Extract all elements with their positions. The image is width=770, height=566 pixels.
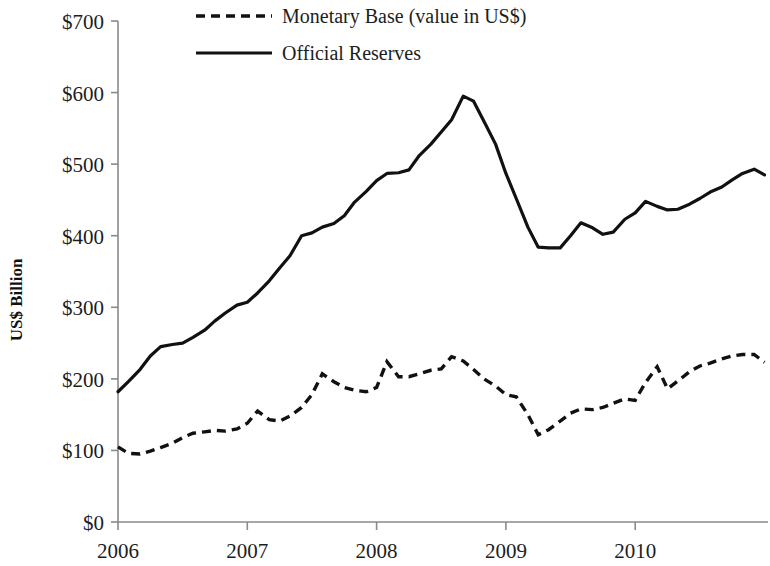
x-tick-label: 2010 (614, 539, 656, 563)
y-tick-label: $300 (62, 296, 104, 320)
series-line-official-reserves (118, 96, 765, 392)
y-tick-label: $700 (62, 10, 104, 34)
chart-container: $0$100$200$300$400$500$600$700 200620072… (0, 0, 770, 566)
x-tick-label: 2009 (485, 539, 527, 563)
y-tick-label: $400 (62, 225, 104, 249)
x-tick-label: 2006 (97, 539, 139, 563)
y-tick-label: $500 (62, 153, 104, 177)
y-axis-tick-labels: $0$100$200$300$400$500$600$700 (62, 10, 104, 535)
y-tick-label: $0 (83, 511, 104, 535)
y-tick-label: $600 (62, 82, 104, 106)
y-tick-label: $200 (62, 368, 104, 392)
x-axis-tick-labels: 20062007200820092010 (97, 539, 656, 563)
y-axis-tick-marks (111, 21, 118, 522)
y-axis-title: US$ Billion (7, 258, 26, 341)
x-axis-tick-marks (118, 522, 635, 530)
series-line-monetary-base (118, 355, 765, 454)
chart-legend: Monetary Base (value in US$) Official Re… (196, 5, 526, 64)
x-tick-label: 2007 (226, 539, 268, 563)
legend-label-monetary-base: Monetary Base (value in US$) (282, 5, 526, 28)
line-chart: $0$100$200$300$400$500$600$700 200620072… (0, 0, 770, 566)
x-tick-label: 2008 (356, 539, 398, 563)
legend-label-official-reserves: Official Reserves (282, 42, 421, 64)
y-tick-label: $100 (62, 439, 104, 463)
